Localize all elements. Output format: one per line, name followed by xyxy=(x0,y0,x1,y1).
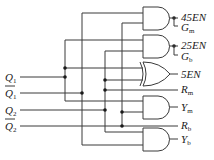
label-q1-bar: Q1 xyxy=(5,87,17,101)
label-gm: Gm xyxy=(181,21,195,35)
label-rm: Rm xyxy=(180,83,194,97)
output-labels: 45EN Gm 25EN Gb 5EN Rm Ym Rb Yb xyxy=(180,11,207,147)
junction-dot xyxy=(103,88,107,92)
label-q2: Q2 xyxy=(5,104,17,118)
xor-body xyxy=(143,62,170,86)
and-gate-4 xyxy=(143,128,170,151)
label-q1: Q1 xyxy=(5,71,17,85)
label-q2-bar: Q2 xyxy=(5,120,17,134)
label-gb: Gb xyxy=(181,50,193,64)
input-labels: Q1 Q1 Q2 Q2 xyxy=(5,71,17,134)
junction-dot xyxy=(63,75,67,79)
and-gate-1 xyxy=(143,7,170,30)
label-rb: Rb xyxy=(180,119,192,133)
junction-dot xyxy=(120,124,124,128)
label-ym: Ym xyxy=(181,101,193,115)
junction-dot xyxy=(63,66,67,70)
junction-dot xyxy=(120,110,124,114)
junction-dot xyxy=(103,78,107,82)
junction-dot xyxy=(80,91,84,95)
circuit-svg: Q1 Q1 Q2 Q2 45EN Gm 25EN Gb 5EN Rm Ym Rb… xyxy=(0,0,214,160)
label-5en: 5EN xyxy=(181,68,201,80)
xor-back-curve xyxy=(140,62,143,86)
and-gate-2 xyxy=(143,35,170,58)
logic-circuit-diagram: Q1 Q1 Q2 Q2 45EN Gm 25EN Gb 5EN Rm Ym Rb… xyxy=(0,0,214,160)
and-gate-3 xyxy=(143,96,170,119)
label-yb: Yb xyxy=(181,133,191,147)
xor-gate xyxy=(140,62,170,86)
junction-dot xyxy=(103,108,107,112)
vertical-buses xyxy=(65,13,122,145)
